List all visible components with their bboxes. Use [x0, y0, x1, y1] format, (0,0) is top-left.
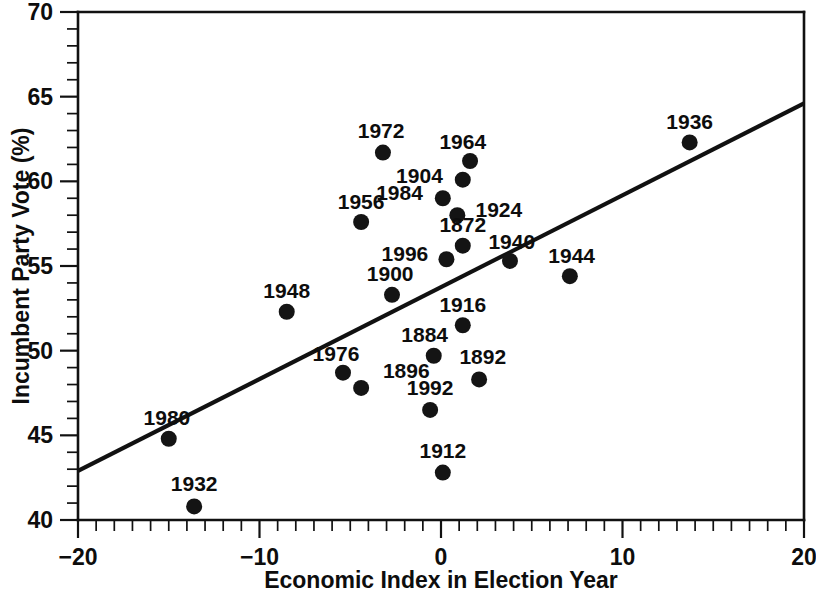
point-labels-layer: 1872188418921896190019041912191619241932…: [144, 110, 713, 495]
data-point-label-1924: 1924: [475, 198, 522, 221]
data-point-1996: [438, 251, 454, 267]
data-point-1900: [384, 287, 400, 303]
data-point-1964: [462, 153, 478, 169]
data-point-1940: [502, 253, 518, 269]
y-axis-title: Incumbent Party Vote (%): [8, 128, 34, 405]
plot-area: −20−100102040455055606570 18721884189218…: [0, 0, 816, 596]
data-point-1976: [335, 365, 351, 381]
data-point-label-1984: 1984: [376, 181, 423, 204]
axes-layer: −20−100102040455055606570: [27, 0, 816, 570]
data-point-1948: [279, 304, 295, 320]
data-point-label-1996: 1996: [382, 242, 429, 265]
data-point-label-1964: 1964: [439, 130, 486, 153]
data-point-1956: [353, 214, 369, 230]
y-axis-tick-label: 65: [27, 84, 53, 110]
data-point-1984: [435, 190, 451, 206]
x-axis-title: Economic Index in Election Year: [264, 567, 618, 593]
data-point-label-1912: 1912: [419, 439, 466, 462]
data-point-1904: [455, 172, 471, 188]
y-axis-tick-label: 70: [27, 0, 53, 25]
data-point-1972: [375, 145, 391, 161]
data-point-1980: [161, 431, 177, 447]
data-point-label-1884: 1884: [401, 323, 448, 346]
data-point-1912: [435, 465, 451, 481]
data-point-label-1992: 1992: [407, 376, 454, 399]
x-axis-tick-label: 20: [791, 544, 816, 570]
data-point-label-1972: 1972: [358, 119, 405, 142]
data-point-label-1944: 1944: [548, 244, 595, 267]
data-point-label-1940: 1940: [488, 230, 535, 253]
data-point-label-1932: 1932: [171, 472, 218, 495]
data-point-1992: [422, 402, 438, 418]
data-point-label-1976: 1976: [313, 342, 360, 365]
x-axis-tick-label: −20: [58, 544, 97, 570]
data-point-label-1892: 1892: [459, 345, 506, 368]
data-point-1892: [471, 371, 487, 387]
data-point-label-1980: 1980: [144, 406, 191, 429]
scatter-chart: −20−100102040455055606570 18721884189218…: [0, 0, 816, 596]
data-point-1872: [455, 238, 471, 254]
data-point-1916: [455, 317, 471, 333]
data-point-1896: [353, 380, 369, 396]
y-axis-tick-label: 40: [27, 507, 53, 533]
data-point-1944: [562, 268, 578, 284]
data-point-label-1916: 1916: [439, 293, 486, 316]
data-point-label-1900: 1900: [367, 262, 414, 285]
data-point-1932: [186, 498, 202, 514]
data-point-1936: [682, 134, 698, 150]
data-point-label-1948: 1948: [263, 279, 310, 302]
y-axis-tick-label: 45: [27, 422, 53, 448]
data-point-label-1936: 1936: [666, 110, 713, 133]
